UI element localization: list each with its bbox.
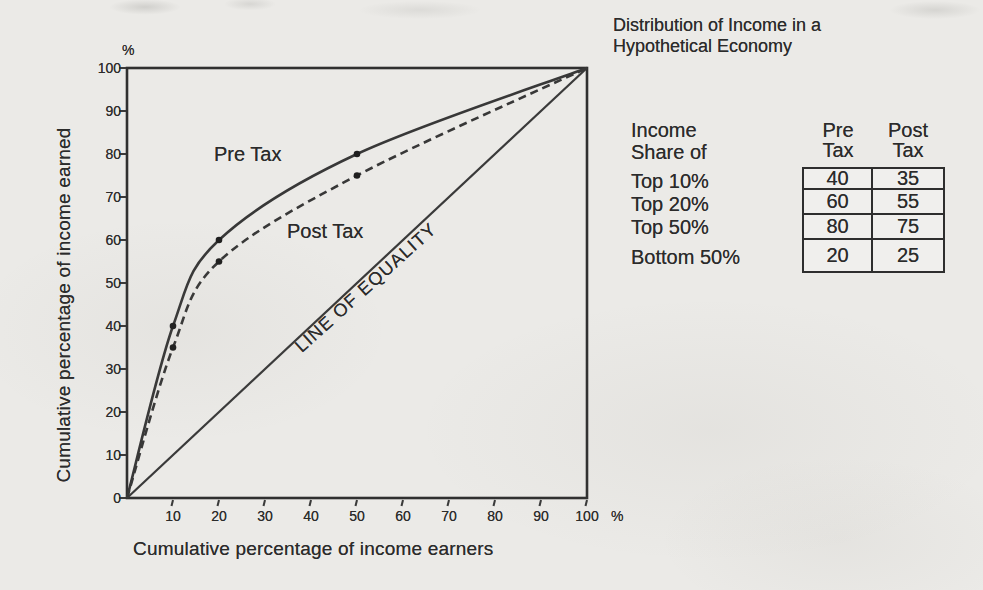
y-tick-label: 100 — [91, 60, 121, 76]
income-share-table: 40 35 60 55 80 75 20 25 — [802, 167, 945, 273]
x-tick-mark — [494, 500, 496, 506]
figure-title: Distribution of Income in a Hypothetical… — [613, 15, 863, 57]
x-tick-label: 90 — [523, 508, 559, 524]
x-tick-label: 100 — [569, 508, 605, 524]
table-col-header-pre: Pre Tax — [803, 120, 873, 160]
x-tick-label: 80 — [477, 508, 513, 524]
col-header-pre-line1: Pre — [803, 120, 873, 140]
y-axis-percent-sign: % — [122, 42, 134, 58]
col-header-post-line2: Tax — [873, 140, 943, 160]
y-tick-label: 10 — [91, 447, 121, 463]
table-cell: 80 — [804, 215, 873, 240]
table-cell: 55 — [873, 190, 943, 215]
table-cell: 35 — [873, 169, 943, 190]
table-cell: 75 — [873, 215, 943, 240]
table-cell: 25 — [873, 240, 943, 271]
scanned-figure-page: % % Cumulative percentage of income earn… — [0, 0, 983, 590]
y-tick-label: 70 — [91, 189, 121, 205]
x-tick-mark — [264, 500, 266, 506]
y-tick-label: 80 — [91, 146, 121, 162]
x-tick-label: 60 — [385, 508, 421, 524]
x-tick-mark — [540, 500, 542, 506]
x-tick-mark — [402, 500, 404, 506]
data-point-dot — [170, 323, 177, 330]
row-label-bottom-50: Bottom 50% — [631, 246, 740, 269]
x-tick-label: 40 — [293, 508, 329, 524]
x-tick-mark — [356, 500, 358, 506]
row-label-top-20: Top 20% — [631, 193, 709, 216]
table-col-header-post: Post Tax — [873, 120, 943, 160]
table-row-header-line1: Income — [631, 119, 707, 141]
x-tick-label: 20 — [201, 508, 237, 524]
x-axis-title: Cumulative percentage of income earners — [133, 538, 494, 560]
x-tick-mark — [310, 500, 312, 506]
x-tick-mark — [586, 500, 588, 506]
data-point-dot — [216, 258, 223, 265]
figure-title-line1: Distribution of Income in a — [613, 15, 863, 36]
x-tick-mark — [448, 500, 450, 506]
x-tick-label: 10 — [155, 508, 191, 524]
y-tick-label: 30 — [91, 361, 121, 377]
x-tick-mark — [218, 500, 220, 506]
table-row-header: Income Share of — [631, 119, 707, 163]
y-tick-label: 40 — [91, 318, 121, 334]
row-label-top-10: Top 10% — [631, 170, 709, 193]
x-tick-label: 70 — [431, 508, 467, 524]
table-cell: 40 — [804, 169, 873, 190]
y-tick-label: 90 — [91, 103, 121, 119]
y-axis-title: Cumulative percentage of income earned — [53, 127, 75, 482]
x-tick-mark — [172, 500, 174, 506]
pre-tax-series-label: Pre Tax — [214, 143, 281, 166]
data-point-dot — [354, 151, 361, 158]
post-tax-series-label: Post Tax — [287, 220, 363, 243]
x-tick-label: 30 — [247, 508, 283, 524]
x-tick-label: 50 — [339, 508, 375, 524]
col-header-pre-line2: Tax — [803, 140, 873, 160]
data-point-dot — [170, 344, 177, 351]
data-point-dot — [216, 237, 223, 244]
row-label-top-50: Top 50% — [631, 216, 709, 239]
figure-title-line2: Hypothetical Economy — [613, 36, 863, 57]
x-axis-percent-sign: % — [611, 508, 623, 524]
y-tick-label: 0 — [91, 490, 121, 506]
table-cell: 20 — [804, 240, 873, 271]
col-header-post-line1: Post — [873, 120, 943, 140]
lorenz-curve-chart — [0, 0, 983, 590]
table-row-header-line2: Share of — [631, 141, 707, 163]
y-tick-label: 60 — [91, 232, 121, 248]
y-tick-label: 20 — [91, 404, 121, 420]
y-tick-label: 50 — [91, 275, 121, 291]
table-cell: 60 — [804, 190, 873, 215]
data-point-dot — [354, 172, 361, 179]
